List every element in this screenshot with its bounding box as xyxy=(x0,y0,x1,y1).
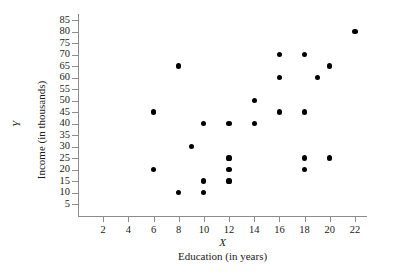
y-tick-label-wrap: 40 xyxy=(44,118,70,129)
y-axis-line xyxy=(78,14,79,217)
y-tick-mark xyxy=(72,43,78,44)
data-point xyxy=(176,63,181,68)
y-tick-label: 15 xyxy=(48,176,70,187)
y-tick-label: 10 xyxy=(48,187,70,198)
x-tick-mark xyxy=(103,217,104,222)
x-tick-mark xyxy=(179,217,180,222)
y-tick-label: 70 xyxy=(48,49,70,60)
y-tick-label: 30 xyxy=(48,141,70,152)
y-tick-label: 80 xyxy=(48,26,70,37)
y-tick-label-wrap: 45 xyxy=(44,107,70,118)
data-point xyxy=(226,167,231,172)
y-tick-label-wrap: 35 xyxy=(44,130,70,141)
y-tick-mark xyxy=(72,112,78,113)
data-point xyxy=(201,121,206,126)
x-tick-label: 12 xyxy=(217,224,241,235)
data-point xyxy=(226,121,231,126)
data-point xyxy=(252,121,257,126)
x-tick-label: 4 xyxy=(116,224,140,235)
data-point xyxy=(315,75,320,80)
scatter-plot-figure: 510152025303540455055606570758085 246810… xyxy=(0,0,407,276)
y-tick-mark xyxy=(72,89,78,90)
data-point xyxy=(302,155,307,160)
y-tick-label: 40 xyxy=(48,118,70,129)
y-tick-label: 65 xyxy=(48,61,70,72)
y-tick-mark xyxy=(72,147,78,148)
data-point xyxy=(302,52,307,57)
y-tick-label: 60 xyxy=(48,72,70,83)
x-axis-title: Education (in years) xyxy=(78,250,367,262)
x-tick-label: 2 xyxy=(91,224,115,235)
data-point xyxy=(277,75,282,80)
data-point xyxy=(226,178,231,183)
data-point xyxy=(252,98,257,103)
y-tick-mark xyxy=(72,124,78,125)
data-point xyxy=(189,144,194,149)
data-point xyxy=(176,190,181,195)
x-axis-line xyxy=(78,216,367,217)
y-tick-label-wrap: 70 xyxy=(44,49,70,60)
y-tick-label: 75 xyxy=(48,38,70,49)
y-tick-label-wrap: 50 xyxy=(44,95,70,106)
y-tick-label-wrap: 25 xyxy=(44,153,70,164)
data-point xyxy=(277,52,282,57)
x-tick-mark xyxy=(330,217,331,222)
x-tick-label: 16 xyxy=(267,224,291,235)
y-tick-label-wrap: 10 xyxy=(44,187,70,198)
y-tick-label-wrap: 75 xyxy=(44,38,70,49)
x-tick-label: 22 xyxy=(343,224,367,235)
y-tick-label-wrap: 55 xyxy=(44,84,70,95)
data-point xyxy=(302,109,307,114)
data-point xyxy=(327,155,332,160)
x-tick-mark xyxy=(279,217,280,222)
y-tick-mark xyxy=(72,181,78,182)
y-tick-mark xyxy=(72,55,78,56)
x-axis-variable-label: X xyxy=(78,236,367,248)
x-tick-mark xyxy=(154,217,155,222)
x-tick-mark xyxy=(355,217,356,222)
y-tick-label: 25 xyxy=(48,153,70,164)
data-point xyxy=(151,109,156,114)
x-tick-label: 20 xyxy=(318,224,342,235)
y-tick-label-wrap: 85 xyxy=(44,15,70,26)
y-tick-label-wrap: 80 xyxy=(44,26,70,37)
x-tick-label: 8 xyxy=(167,224,191,235)
y-tick-mark xyxy=(72,32,78,33)
x-tick-mark xyxy=(204,217,205,222)
y-tick-label: 45 xyxy=(48,107,70,118)
y-tick-label-wrap: 65 xyxy=(44,61,70,72)
data-point xyxy=(327,63,332,68)
y-tick-label: 55 xyxy=(48,84,70,95)
y-tick-label-wrap: 30 xyxy=(44,141,70,152)
data-point xyxy=(352,29,357,34)
x-tick-mark xyxy=(305,217,306,222)
y-tick-label: 50 xyxy=(48,95,70,106)
data-point xyxy=(277,109,282,114)
x-tick-mark xyxy=(229,217,230,222)
data-point xyxy=(302,167,307,172)
y-tick-mark xyxy=(72,66,78,67)
x-tick-mark xyxy=(128,217,129,222)
y-tick-mark xyxy=(72,204,78,205)
y-tick-mark xyxy=(72,20,78,21)
data-point xyxy=(226,155,231,160)
y-tick-mark xyxy=(72,158,78,159)
data-point xyxy=(151,167,156,172)
y-tick-label: 5 xyxy=(48,199,70,210)
y-tick-label-wrap: 20 xyxy=(44,164,70,175)
data-point xyxy=(201,190,206,195)
y-axis-variable-label: Y xyxy=(10,121,22,127)
y-tick-label: 85 xyxy=(48,15,70,26)
x-tick-mark xyxy=(254,217,255,222)
plot-area: 510152025303540455055606570758085 246810… xyxy=(0,0,407,276)
x-tick-label: 18 xyxy=(293,224,317,235)
x-tick-label: 6 xyxy=(142,224,166,235)
y-axis-title: Income (in thousands) xyxy=(35,65,47,195)
y-tick-mark xyxy=(72,193,78,194)
y-tick-label-wrap: 5 xyxy=(44,199,70,210)
y-tick-mark xyxy=(72,78,78,79)
data-point xyxy=(201,178,206,183)
x-tick-label: 14 xyxy=(242,224,266,235)
y-tick-mark xyxy=(72,101,78,102)
y-tick-label-wrap: 15 xyxy=(44,176,70,187)
